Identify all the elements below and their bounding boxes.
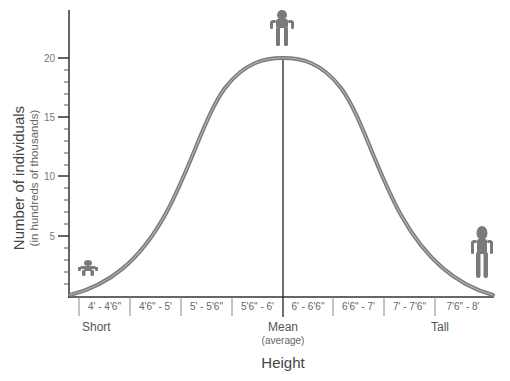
y-tick-20: 20 bbox=[44, 53, 56, 64]
category-label: 4' - 4'6" bbox=[88, 301, 121, 312]
category-label: 6' - 6'6" bbox=[292, 301, 325, 312]
category-label: 7'6" - 8' bbox=[447, 301, 480, 312]
mean-sublabel: (average) bbox=[262, 335, 305, 346]
y-major-ticks bbox=[58, 58, 69, 236]
tall-label: Tall bbox=[431, 320, 449, 334]
short-label: Short bbox=[82, 320, 111, 334]
category-label: 4'6" - 5' bbox=[139, 301, 172, 312]
y-axis-label: Number of individuals bbox=[10, 106, 27, 250]
y-tick-15: 15 bbox=[44, 112, 56, 123]
average-person-icon bbox=[270, 10, 294, 46]
category-label: 7' - 7'6" bbox=[393, 301, 426, 312]
tall-person-icon bbox=[471, 226, 493, 278]
category-label: 5' - 5'6" bbox=[190, 301, 223, 312]
category-label: 6'6" - 7' bbox=[342, 301, 375, 312]
x-axis-label: Height bbox=[261, 354, 305, 371]
y-tick-5: 5 bbox=[49, 231, 55, 242]
height-distribution-chart: Number of individuals (in hundreds of th… bbox=[0, 0, 510, 381]
short-person-icon bbox=[78, 260, 98, 276]
category-label: 5'6" - 6' bbox=[241, 301, 274, 312]
bell-curve bbox=[70, 58, 493, 295]
mean-label: Mean bbox=[268, 320, 298, 334]
y-tick-10: 10 bbox=[44, 171, 56, 182]
y-axis-sublabel: (in hundreds of thousands) bbox=[28, 109, 40, 246]
y-axis-title: Number of individuals (in hundreds of th… bbox=[10, 106, 40, 250]
